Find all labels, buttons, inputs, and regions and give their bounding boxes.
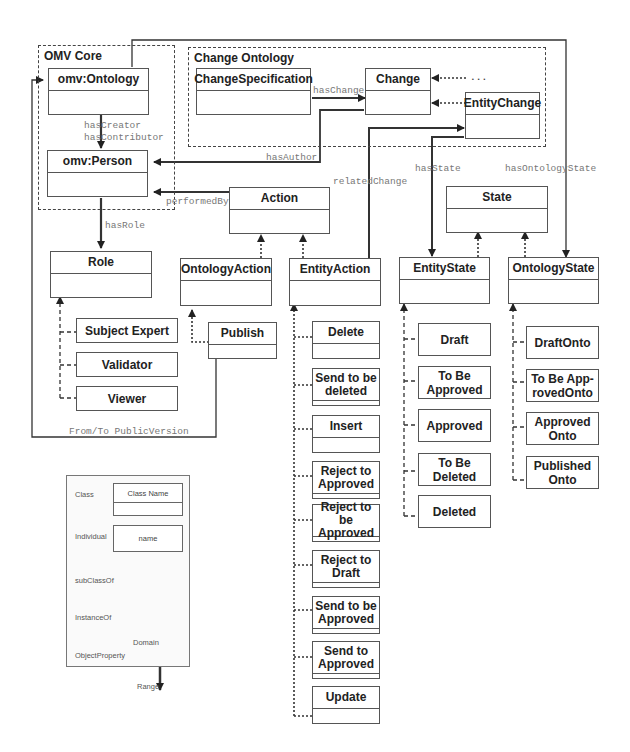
class-name: Update <box>313 687 379 709</box>
individual-validator: Validator <box>76 352 178 377</box>
entity-action-reject-to-be-approved: Reject to be Approved <box>312 504 380 542</box>
class-name: Delete <box>313 322 379 344</box>
ontology-diagram: OMV Core Change Ontology omv:Ontology om… <box>0 0 630 752</box>
class-name: Send to be Approved <box>313 597 379 629</box>
entity-action-send-to-approved: Send to Approved <box>312 641 380 679</box>
more-changes-ellipsis: ... <box>470 72 487 83</box>
class-name: Role <box>51 252 151 274</box>
class-name: Insert <box>313 416 379 438</box>
class-name: Reject to Draft <box>313 551 379 583</box>
legend-class-label: Class <box>75 490 94 499</box>
class-name: EntityChange <box>466 93 539 115</box>
class-publish: Publish <box>208 322 277 359</box>
class-name: OntologyState <box>509 258 598 280</box>
class-role: Role <box>50 251 152 298</box>
class-omv-person: omv:Person <box>47 150 148 197</box>
class-name: omv:Ontology <box>49 69 148 91</box>
ontology-state-approved-onto: Approved Onto <box>526 412 599 445</box>
entity-state-draft: Draft <box>418 323 491 356</box>
entity-action-send-to-be-approved: Send to be Approved <box>312 596 380 634</box>
class-name: ChangeSpecification <box>197 69 310 91</box>
label-has-role: hasRole <box>105 220 145 231</box>
class-change: Change <box>365 68 431 115</box>
class-name: Send to be deleted <box>313 369 379 401</box>
individual-subject-expert: Subject Expert <box>76 318 178 343</box>
legend-class-box: Class Name <box>113 483 183 516</box>
label-has-contributor: hasContributor <box>84 132 164 143</box>
entity-action-insert: Insert <box>312 415 380 453</box>
legend-subclassof-label: subClassOf <box>75 576 114 585</box>
class-omv-ontology: omv:Ontology <box>48 68 149 115</box>
entity-state-to-be-approved: To Be Approved <box>418 366 491 399</box>
label-from-to-public-version: From/To PublicVersion <box>69 426 189 437</box>
entity-action-delete: Delete <box>312 321 380 359</box>
legend-class-name: Class Name <box>114 484 182 503</box>
legend-instanceof-label: InstanceOf <box>75 613 111 622</box>
class-name: Publish <box>209 323 276 345</box>
class-state: State <box>446 186 548 233</box>
label-related-change: relatedChange <box>333 176 407 187</box>
package-title: OMV Core <box>44 49 102 63</box>
entity-action-update: Update <box>312 686 380 724</box>
package-title: Change Ontology <box>194 51 294 65</box>
class-name: EntityAction <box>290 259 380 281</box>
class-name: Reject to be Approved <box>313 505 379 537</box>
legend-objectproperty-label: ObjectProperty <box>75 651 125 660</box>
label-has-creator: hasCreator <box>84 120 141 131</box>
entity-action-send-to-be-deleted: Send to be deleted <box>312 368 380 406</box>
entity-state-to-be-deleted: To Be Deleted <box>418 453 491 486</box>
entity-state-approved: Approved <box>418 409 491 442</box>
class-ontology-action: OntologyAction <box>180 258 272 306</box>
label-performed-by: performedBy <box>166 196 229 207</box>
legend-individual-name: name <box>139 534 158 543</box>
class-name: State <box>447 187 547 209</box>
label-has-author: hasAuthor <box>266 152 317 163</box>
class-ontology-state: OntologyState <box>508 257 599 304</box>
class-name: EntityState <box>400 258 489 280</box>
class-entity-state: EntityState <box>399 257 490 304</box>
legend: Class Class Name Individual name subClas… <box>66 475 190 667</box>
class-name: Reject to Approved <box>313 462 379 494</box>
class-name: Change <box>366 69 430 91</box>
ontology-state-draft-onto: DraftOnto <box>526 326 599 359</box>
class-name: OntologyAction <box>181 259 271 281</box>
entity-action-reject-to-approved: Reject to Approved <box>312 461 380 499</box>
legend-domain-label: Domain <box>133 638 159 647</box>
entity-state-deleted: Deleted <box>418 495 491 528</box>
individual-viewer: Viewer <box>76 386 178 411</box>
class-change-specification: ChangeSpecification <box>196 68 311 115</box>
legend-individual-box: name <box>113 525 183 552</box>
label-has-ontology-state: hasOntologyState <box>505 163 596 174</box>
entity-action-reject-to-draft: Reject to Draft <box>312 550 380 588</box>
class-entity-action: EntityAction <box>289 258 381 306</box>
legend-individual-label: Individual <box>75 532 107 541</box>
legend-range-label: Range <box>137 682 159 691</box>
class-action: Action <box>229 187 330 234</box>
class-name: omv:Person <box>48 151 147 173</box>
class-name: Action <box>230 188 329 210</box>
ontology-state-published-onto: Published Onto <box>526 456 599 489</box>
label-has-change: hasChange <box>313 85 364 96</box>
ontology-state-to-be-approved-onto: To Be App-rovedOnto <box>526 369 599 402</box>
class-name: Send to Approved <box>313 642 379 674</box>
label-has-state: hasState <box>415 163 461 174</box>
class-entity-change: EntityChange <box>465 92 540 139</box>
